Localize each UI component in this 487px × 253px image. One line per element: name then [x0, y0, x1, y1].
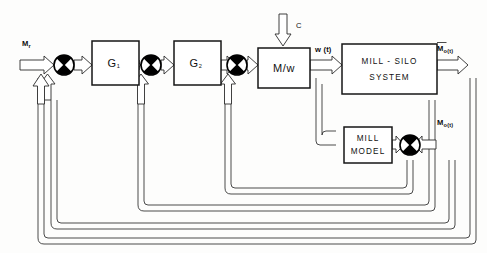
block-mill-silo-line2: SYSTEM: [369, 73, 409, 82]
arrow-mw-to-mill-silo: [310, 56, 342, 74]
summing-junction-3[interactable]: [227, 55, 247, 75]
block-mill-silo-system[interactable]: MILL - SILO SYSTEM: [342, 44, 437, 94]
block-mill-model[interactable]: MILL MODEL: [344, 127, 392, 163]
block-mw[interactable]: M/w: [258, 48, 310, 88]
block-diagram-svg: G1 G2 M/w MILL - SILO SYSTEM MILL MODEL: [0, 0, 487, 253]
arrow-mill-silo-output: [437, 56, 468, 74]
arrow-sum2-to-g2: [161, 56, 174, 74]
block-mill-silo-line1: MILL - SILO: [362, 57, 418, 66]
block-g2-label: G: [190, 57, 199, 69]
block-g2-sub: 2: [199, 63, 203, 69]
label-output-mo: Mo(t): [437, 118, 453, 128]
feedback-loop-outer: [38, 78, 476, 244]
label-signal-w: w (t): [314, 45, 332, 54]
block-g1-label: G: [108, 57, 117, 69]
arrow-disturbance-c: [275, 14, 291, 46]
arrow-input-mr: [20, 56, 54, 74]
summing-junction-1[interactable]: [54, 55, 74, 75]
summing-junction-4[interactable]: [400, 135, 420, 155]
label-disturbance-c: C: [296, 21, 302, 30]
label-input-mr: Mr: [22, 39, 32, 49]
block-diagram-canvas: G1 G2 M/w MILL - SILO SYSTEM MILL MODEL: [0, 0, 487, 253]
arrow-sum3-to-mw: [247, 56, 258, 74]
arrow-feedback-sum3-a: [221, 74, 236, 104]
label-output-mo-bar: Mo(t): [437, 43, 453, 55]
feedback-loop-2: [51, 100, 455, 229]
svg-text:Mo(t): Mo(t): [437, 44, 453, 54]
mill-model-input-branch: [316, 78, 336, 145]
summing-junction-2[interactable]: [141, 55, 161, 75]
block-g1[interactable]: G1: [92, 41, 139, 85]
block-g2[interactable]: G2: [174, 41, 221, 85]
block-mill-model-line1: MILL: [357, 134, 380, 143]
arrow-sum1-to-g1: [74, 56, 92, 74]
block-mill-model-line2: MODEL: [351, 147, 386, 156]
block-mw-label: M/w: [273, 62, 295, 74]
block-g1-sub: 1: [117, 63, 121, 69]
